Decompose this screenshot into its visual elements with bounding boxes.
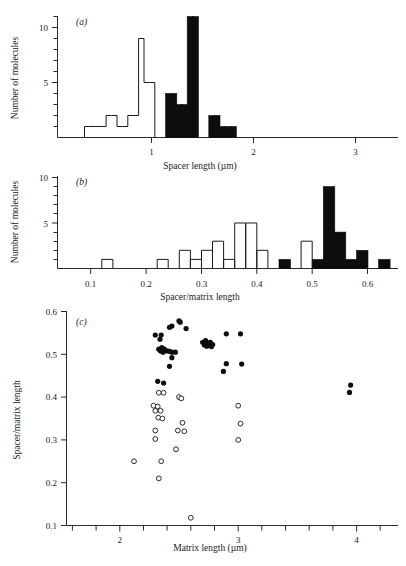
panel-b-filled-histogram [279, 187, 390, 269]
scatter-point-filled [173, 350, 178, 355]
panel-a-bar [214, 116, 220, 138]
scatter-point-open [236, 403, 241, 408]
scatter-point-open [236, 438, 241, 443]
scatter-point-filled [224, 361, 229, 366]
scatter-point-filled [224, 331, 229, 336]
panel-a-bar [225, 127, 231, 138]
panel-a-xtick-1: 1 [149, 147, 154, 157]
scatter-point-filled [221, 369, 226, 374]
panel-a-xtick-marks [152, 138, 356, 144]
panel-a-open-histogram [85, 39, 155, 138]
scatter-point-open [188, 515, 193, 520]
scatter-point-open [182, 429, 187, 434]
panel-b-bar [323, 187, 335, 269]
panel-a-xlabel: Spacer length (µm) [163, 161, 237, 172]
panel-c-axes [67, 311, 399, 526]
panel-b-id: (b) [76, 177, 87, 188]
panel-b-bar [379, 259, 391, 268]
panel-a-axes [58, 16, 399, 138]
scatter-point-filled [169, 324, 174, 329]
panel-c-xlabel: Matrix length (µm) [173, 543, 247, 554]
panel-b-xtick-labels: 0.10.20.30.40.50.6 [85, 279, 374, 289]
panel-a-xtick-2: 2 [251, 147, 256, 157]
scatter-point-filled [167, 364, 172, 369]
panel-c-ytick-label: 0.2 [46, 478, 57, 488]
panel-b-bar [279, 259, 291, 268]
panel-c-ytick-label: 0.3 [46, 435, 58, 445]
figure-svg: Number of molecules (a) 10 5 1 2 [0, 0, 406, 566]
panel-b-axes [58, 176, 399, 269]
panel-c-filled-points [153, 318, 354, 395]
panel-b-xtick-label: 0.3 [196, 279, 208, 289]
panel-a-ytick-marks [52, 17, 58, 127]
scatter-point-open [179, 396, 184, 401]
panel-a-bar [176, 105, 182, 138]
panel-c-ytick-label: 0.5 [46, 350, 58, 360]
scatter-point-filled [169, 355, 174, 360]
scatter-point-filled [238, 331, 243, 336]
panel-c-xtick-label: 2 [118, 535, 123, 545]
panel-b-xlabel: Spacer/matrix length [160, 292, 240, 302]
figure-container: Number of molecules (a) 10 5 1 2 [0, 0, 406, 566]
scatter-point-filled [348, 383, 353, 388]
scatter-point-filled [155, 379, 160, 384]
scatter-point-filled [210, 342, 215, 347]
panel-a: Number of molecules (a) 10 5 1 2 [10, 16, 398, 172]
scatter-point-open [161, 390, 166, 395]
panel-a-bar [220, 127, 226, 138]
panel-a-bar [187, 17, 193, 138]
scatter-point-filled [347, 390, 352, 395]
panel-c-open-points [132, 390, 243, 520]
panel-b-bar [345, 259, 357, 268]
panel-b-ytick-10: 10 [39, 173, 49, 183]
panel-c-ytick-label: 0.1 [46, 521, 57, 531]
scatter-point-filled [153, 332, 158, 337]
panel-b: Number of molecules (b) 10 5 0.10.20.30.… [10, 173, 398, 302]
panel-a-bar [209, 116, 215, 138]
panel-b-xtick-label: 0.5 [307, 279, 319, 289]
scatter-point-open [153, 428, 158, 433]
panel-b-bar [312, 259, 324, 268]
panel-a-ytick-10: 10 [39, 23, 49, 33]
scatter-point-filled [184, 326, 189, 331]
panel-c-xtick-marks [72, 526, 380, 532]
scatter-point-open [238, 421, 243, 426]
scatter-point-open [153, 408, 158, 413]
panel-a-filled-histogram [166, 17, 237, 138]
scatter-point-filled [239, 362, 244, 367]
panel-b-xtick-label: 0.1 [85, 279, 96, 289]
panel-a-bar [231, 127, 237, 138]
panel-b-ytick-marks [52, 178, 58, 260]
scatter-point-open [132, 459, 137, 464]
panel-a-bar [171, 94, 177, 138]
panel-b-xtick-label: 0.2 [140, 279, 151, 289]
scatter-point-open [160, 416, 165, 421]
scatter-point-open [175, 428, 180, 433]
panel-c-ylabel: Spacer/matrix length [12, 380, 22, 460]
panel-a-xtick-3: 3 [353, 147, 358, 157]
scatter-point-open [156, 476, 161, 481]
scatter-point-open [158, 408, 163, 413]
scatter-point-filled [159, 332, 164, 337]
panel-a-ylabel: Number of molecules [10, 37, 20, 120]
panel-a-bar [182, 105, 188, 138]
panel-b-ytick-5: 5 [44, 219, 49, 229]
panel-b-bar [334, 232, 346, 268]
panel-c-id: (c) [76, 317, 87, 328]
panel-c-ytick-label: 0.6 [46, 307, 58, 317]
scatter-point-open [153, 437, 158, 442]
panel-a-bar [193, 17, 199, 138]
scatter-point-filled [178, 320, 183, 325]
panel-b-ylabel: Number of molecules [10, 181, 20, 264]
panel-c-ytick-marks [61, 312, 67, 526]
panel-b-xtick-label: 0.4 [251, 279, 263, 289]
panel-a-ytick-5: 5 [44, 78, 49, 88]
panel-a-id: (a) [76, 17, 87, 28]
panel-a-bar [166, 94, 172, 138]
scatter-point-open [156, 390, 161, 395]
panel-b-xtick-label: 0.6 [362, 279, 374, 289]
panel-b-xtick-marks [91, 269, 368, 275]
panel-c-ytick-labels: 0.10.20.30.40.50.6 [46, 307, 58, 531]
panel-c-xtick-label: 4 [354, 535, 359, 545]
panel-c-ytick-label: 0.4 [46, 392, 58, 402]
